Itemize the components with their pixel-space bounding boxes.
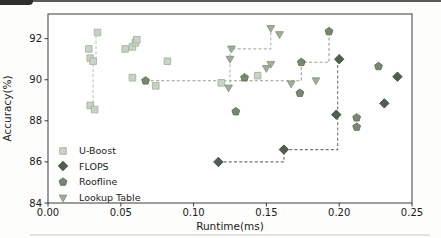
x-tick-label: 0.25	[401, 207, 423, 218]
square-marker	[152, 83, 159, 90]
legend-entry-roofline: Roofline	[56, 174, 141, 190]
legend-label: Lookup Table	[79, 192, 141, 203]
diamond-icon	[56, 160, 70, 172]
legend: U-BoostFLOPSRooflineLookup Table	[56, 143, 141, 205]
triangle-down-icon	[56, 192, 70, 204]
pentagon-icon	[56, 176, 70, 188]
legend-entry-flops: FLOPS	[56, 159, 141, 175]
square-marker	[134, 36, 141, 43]
square-marker	[91, 106, 98, 113]
scatter-plot-figure: 0.000.050.100.150.200.258486889092 Runti…	[0, 0, 441, 238]
x-tick-label: 0.20	[328, 207, 350, 218]
square-marker	[164, 58, 171, 65]
square-marker	[218, 80, 225, 87]
square-marker	[129, 74, 136, 81]
x-tick-label: 0.05	[110, 207, 132, 218]
legend-label: U-Boost	[79, 145, 116, 156]
legend-label: Roofline	[79, 176, 117, 187]
legend-label: FLOPS	[79, 161, 109, 172]
x-axis-label: Runtime(ms)	[196, 220, 264, 232]
legend-entry-lookup-table: Lookup Table	[56, 190, 141, 206]
square-icon	[56, 145, 70, 157]
square-marker	[94, 29, 101, 36]
legend-entry-u-boost: U-Boost	[56, 143, 141, 159]
y-tick-label: 90	[29, 74, 42, 85]
y-tick-label: 88	[29, 115, 42, 126]
x-tick-label: 0.00	[37, 207, 59, 218]
square-marker	[90, 58, 97, 65]
x-tick-label: 0.10	[182, 207, 204, 218]
square-marker	[85, 46, 92, 53]
square-marker	[254, 72, 261, 79]
y-tick-label: 84	[29, 198, 42, 209]
y-tick-label: 92	[29, 33, 42, 44]
square-marker	[122, 46, 129, 53]
x-tick-label: 0.15	[255, 207, 277, 218]
y-tick-label: 86	[29, 156, 42, 167]
y-axis-label: Accuracy(%)	[1, 75, 13, 141]
